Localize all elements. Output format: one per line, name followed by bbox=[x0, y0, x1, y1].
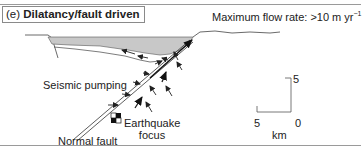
earthquake-focus-line1: Earthquake bbox=[124, 117, 180, 129]
basin-fill bbox=[48, 37, 193, 55]
scale-unit-label: km bbox=[272, 129, 287, 141]
scale-bar bbox=[257, 78, 291, 112]
normal-fault-label: Normal fault bbox=[58, 135, 117, 147]
cross-section-diagram bbox=[0, 0, 362, 150]
scale-horizontal-label: 5 bbox=[254, 117, 260, 129]
scale-vertical-label: 5 bbox=[293, 73, 299, 85]
earthquake-focus-line2: focus bbox=[124, 129, 180, 141]
seismic-pumping-label: Seismic pumping bbox=[43, 79, 127, 91]
earthquake-focus-icon bbox=[111, 113, 121, 123]
scale-origin-label: 0 bbox=[295, 117, 301, 129]
earthquake-focus-label: Earthquake focus bbox=[124, 117, 180, 141]
